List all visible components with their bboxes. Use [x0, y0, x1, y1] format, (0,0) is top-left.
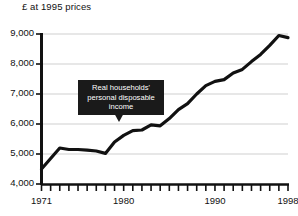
callout-line-1: Real households': [80, 83, 162, 93]
x-tick-label-1990: 1990: [204, 195, 225, 206]
y-tick-label-6000: 6,000: [0, 117, 34, 128]
y-tick-label-8000: 8,000: [0, 57, 34, 68]
y-tick-label-9000: 9,000: [0, 27, 34, 38]
x-tick-label-1998: 1998: [277, 195, 298, 206]
callout-line-3: income: [80, 102, 162, 112]
x-tick-label-1971: 1971: [31, 195, 52, 206]
x-tick-label-1980: 1980: [113, 195, 134, 206]
y-tick-label-5000: 5,000: [0, 147, 34, 158]
y-tick-label-7000: 7,000: [0, 87, 34, 98]
y-tick-label-4000: 4,000: [0, 177, 34, 188]
chart-container: £ at 1995 prices 9,000 8,000 7,000 6,00: [0, 0, 298, 216]
chart-annotation-callout: Real households' personal disposable inc…: [78, 80, 164, 115]
callout-line-2: personal disposable: [80, 93, 162, 103]
callout-arrow-icon: [114, 113, 124, 122]
